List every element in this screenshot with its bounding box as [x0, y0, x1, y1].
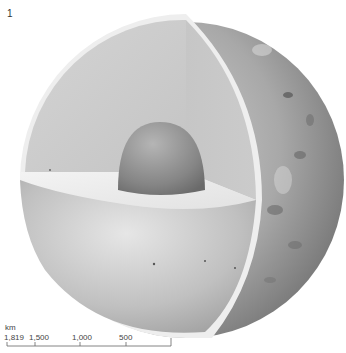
scale-label-500: 500 — [119, 333, 132, 342]
scale-label-1000: 1,000 — [72, 333, 92, 342]
scale-label-1819: 1,819 — [4, 333, 24, 342]
moon-cutaway-diagram — [0, 0, 346, 353]
scale-unit-label: km — [5, 323, 16, 332]
scale-label-1500: 1,500 — [29, 333, 49, 342]
